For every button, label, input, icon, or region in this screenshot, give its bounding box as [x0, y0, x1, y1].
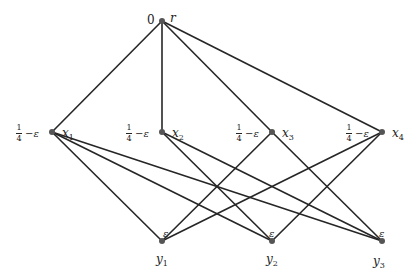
node-x3-label: x3: [282, 127, 294, 142]
node-y1-label: y1: [156, 253, 168, 268]
node-y2-value: ε: [269, 229, 274, 239]
node-r-label: r: [170, 12, 176, 24]
node-r-value: 0: [147, 14, 155, 26]
node-x2-value: 14 − ε: [126, 124, 149, 143]
edge-x1-y2: [52, 132, 272, 241]
node-x2: [159, 129, 165, 135]
graph-diagram: 0 r 14 − ε x1 14 − ε x2 14 − ε x3 14 − ε…: [0, 0, 417, 277]
edge-r-x3: [162, 21, 272, 132]
node-x3-value: 14 − ε: [236, 124, 259, 143]
node-x4-label: x4: [392, 127, 404, 142]
node-y2-label: y2: [266, 253, 278, 268]
node-y3-value: ε: [379, 229, 384, 239]
node-x1-label: x1: [62, 127, 74, 142]
nodes: [49, 18, 385, 244]
edge-r-x1: [52, 21, 162, 132]
edges: [52, 21, 382, 241]
node-x2-label: x2: [172, 127, 184, 142]
node-x4: [379, 129, 385, 135]
node-x3: [269, 129, 275, 135]
edge-r-x4: [162, 21, 382, 132]
node-x1-value: 14 − ε: [16, 124, 39, 143]
node-x4-value: 14 − ε: [346, 124, 369, 143]
edge-x1-y1: [52, 132, 162, 241]
node-y1-value: ε: [163, 229, 168, 239]
node-r: [159, 18, 165, 24]
node-x1: [49, 129, 55, 135]
node-y3-label: y3: [373, 255, 385, 270]
